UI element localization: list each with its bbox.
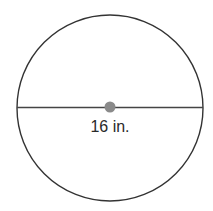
circle-diagram: 16 in. [0,0,213,211]
center-point [105,102,116,113]
diameter-label: 16 in. [90,118,129,135]
